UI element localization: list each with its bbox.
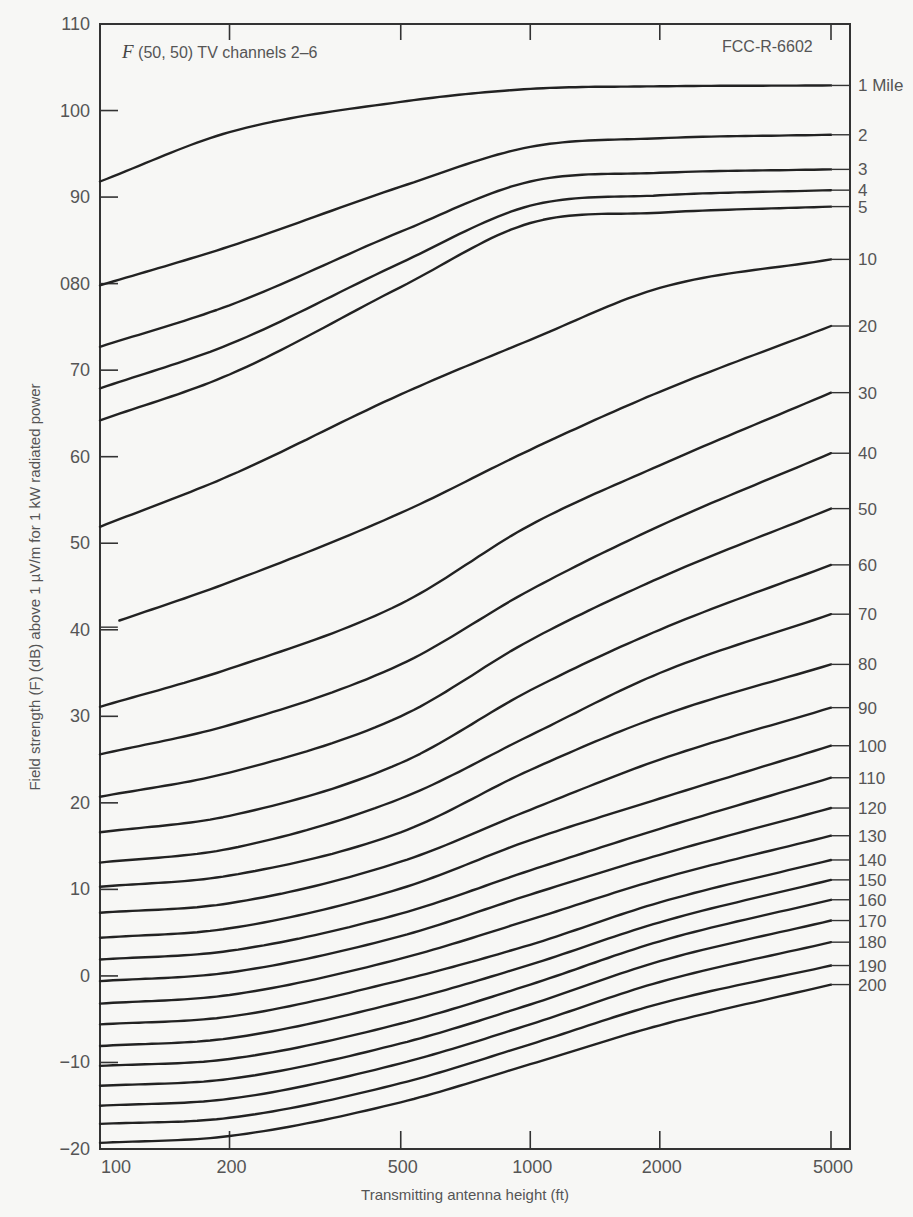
curve-label: 110 — [858, 769, 885, 788]
x-axis-label: Transmitting antenna height (ft) — [361, 1186, 569, 1203]
x-tick-label: 5000 — [813, 1157, 853, 1177]
curve-30 — [100, 393, 831, 707]
y-tick-label: −20 — [59, 1139, 90, 1159]
y-tick-label: 90 — [70, 187, 90, 207]
field-strength-chart: 11010090080706050403020100−10−20 1002005… — [0, 0, 913, 1217]
curve-100 — [100, 746, 831, 938]
y-tick-label: 70 — [70, 360, 90, 380]
x-axis-ticks: 100200500100020005000 — [101, 24, 853, 1177]
y-tick-label: −10 — [59, 1052, 90, 1072]
y-tick-label: 10 — [70, 879, 90, 899]
curve-label: 60 — [858, 556, 877, 575]
reference-code: FCC-R-6602 — [722, 38, 813, 55]
curve-3 — [100, 169, 831, 346]
curve-80 — [100, 664, 831, 886]
curve-label: 140 — [858, 851, 886, 870]
y-axis-label: Field strength (F) (dB) above 1 µV/m for… — [26, 383, 43, 790]
curve-110 — [100, 778, 831, 960]
curve-130 — [100, 836, 831, 1004]
curve-label: 10 — [858, 250, 877, 269]
curve-label: 1 Mile — [858, 76, 903, 95]
x-tick-label: 500 — [388, 1157, 418, 1177]
curve-label: 120 — [858, 799, 886, 818]
curve-label: 130 — [858, 827, 886, 846]
chart-title: F (50, 50) TV channels 2–6 — [121, 41, 318, 62]
y-tick-label: 60 — [70, 447, 90, 467]
x-tick-label: 200 — [216, 1157, 246, 1177]
curve-label: 2 — [858, 126, 867, 145]
y-tick-label: 40 — [70, 620, 90, 640]
curve-label: 20 — [858, 317, 877, 336]
curve-label: 150 — [858, 871, 886, 890]
chart-title-rest: (50, 50) TV channels 2–6 — [134, 44, 318, 61]
curve-20 — [119, 326, 831, 621]
curve-1-mile — [100, 85, 831, 181]
curve-label: 40 — [858, 444, 877, 463]
curve-10 — [100, 259, 831, 526]
chart-title-prefix: F — [121, 41, 134, 62]
curve-120 — [100, 808, 831, 981]
curve-label: 170 — [858, 912, 886, 931]
x-tick-label: 1000 — [512, 1157, 552, 1177]
curve-50 — [100, 509, 831, 797]
y-tick-label: 080 — [60, 274, 90, 294]
x-tick-label: 100 — [101, 1157, 131, 1177]
curve-140 — [100, 860, 831, 1024]
y-tick-label: 50 — [70, 533, 90, 553]
curve-label: 180 — [858, 933, 886, 952]
curve-4 — [100, 190, 831, 388]
curve-label: 100 — [858, 737, 886, 756]
y-tick-label: 110 — [61, 14, 90, 34]
curve-label: 3 — [858, 160, 867, 179]
curve-label: 70 — [858, 605, 877, 624]
curve-label: 160 — [858, 891, 886, 910]
y-tick-label: 20 — [70, 793, 90, 813]
curve-40 — [100, 453, 831, 754]
curve-labels: 1 Mile2345102030405060708090100110120130… — [831, 76, 903, 994]
curve-label: 200 — [858, 976, 886, 995]
curve-70 — [100, 614, 831, 862]
curve-label: 50 — [858, 500, 877, 519]
curve-label: 5 — [858, 198, 867, 217]
curve-label: 190 — [858, 957, 886, 976]
distance-curves — [100, 85, 831, 1143]
curve-label: 30 — [858, 384, 877, 403]
x-tick-label: 2000 — [642, 1157, 682, 1177]
y-axis-ticks: 11010090080706050403020100−10−20 — [59, 14, 118, 1159]
curve-label: 80 — [858, 655, 877, 674]
y-tick-label: 100 — [60, 101, 90, 121]
curve-60 — [100, 565, 831, 832]
curve-label: 90 — [858, 699, 877, 718]
y-tick-label: 0 — [80, 966, 90, 986]
y-tick-label: 30 — [70, 706, 90, 726]
